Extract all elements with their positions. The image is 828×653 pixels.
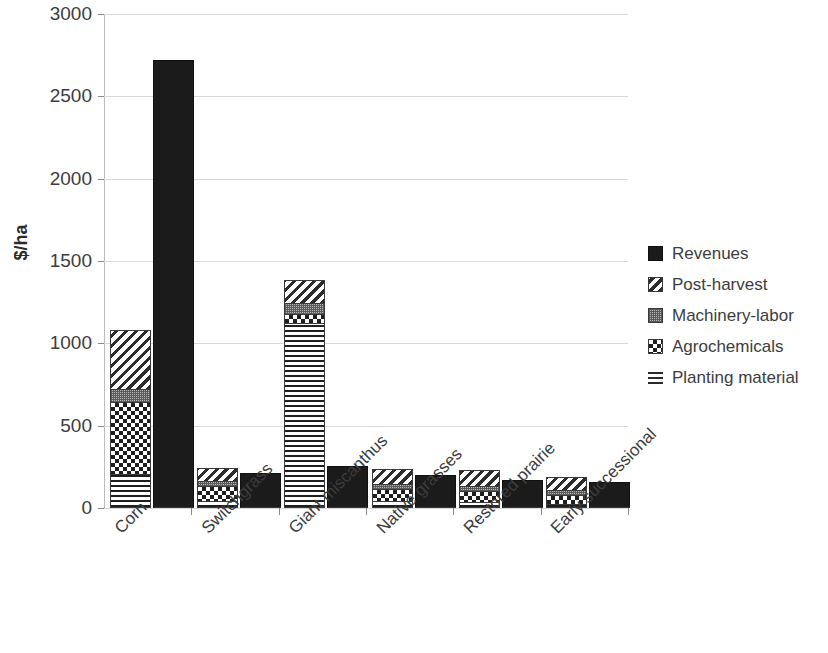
bar-group <box>197 14 281 508</box>
bar-segment-post-harvest[interactable] <box>459 470 500 486</box>
chart-legend: RevenuesPost-harvestMachinery-laborAgroc… <box>648 238 828 393</box>
bar-segment-post-harvest[interactable] <box>284 280 325 303</box>
revenue-bar[interactable] <box>153 60 194 508</box>
y-tick-mark <box>98 426 104 427</box>
bar-group <box>372 14 456 508</box>
legend-item[interactable]: Machinery-labor <box>648 300 828 331</box>
y-tick-mark <box>98 261 104 262</box>
legend-item[interactable]: Post-harvest <box>648 269 828 300</box>
legend-item[interactable]: Agrochemicals <box>648 331 828 362</box>
y-tick-mark <box>98 508 104 509</box>
bar-segment-post-harvest[interactable] <box>197 468 238 481</box>
y-tick-mark <box>98 179 104 180</box>
cost-stacked-bar[interactable] <box>284 280 325 508</box>
horizontal-lines-swatch <box>648 371 663 384</box>
legend-label: Machinery-labor <box>672 306 794 326</box>
legend-item[interactable]: Revenues <box>648 238 828 269</box>
y-tick-label: 0 <box>22 498 92 517</box>
y-tick-mark <box>98 343 104 344</box>
diagonal-hatch-swatch <box>648 277 663 292</box>
y-tick-label: 2500 <box>22 86 92 105</box>
plot-area <box>104 14 628 508</box>
x-tick-mark <box>366 508 367 515</box>
bar-segment-machinery-labor[interactable] <box>110 389 151 401</box>
y-tick-mark <box>98 96 104 97</box>
bar-segment-agrochemicals[interactable] <box>284 314 325 323</box>
x-tick-mark <box>541 508 542 515</box>
bar-segment-post-harvest[interactable] <box>372 469 413 485</box>
y-tick-label: 2000 <box>22 169 92 188</box>
y-tick-mark <box>98 14 104 15</box>
checkerboard-swatch <box>648 339 663 354</box>
legend-label: Agrochemicals <box>672 337 784 357</box>
y-tick-label: 3000 <box>22 4 92 23</box>
x-tick-mark <box>453 508 454 515</box>
bar-chart-figure: $/ha 050010001500200025003000 CornSwitch… <box>0 0 828 653</box>
bar-segment-revenues[interactable] <box>153 60 194 508</box>
y-tick-label: 500 <box>22 416 92 435</box>
bar-group <box>459 14 543 508</box>
x-tick-mark <box>628 508 629 515</box>
bar-segment-agrochemicals[interactable] <box>110 402 151 474</box>
bar-group <box>284 14 368 508</box>
bar-segment-post-harvest[interactable] <box>110 330 151 389</box>
cost-stacked-bar[interactable] <box>110 330 151 508</box>
fine-grid-swatch <box>648 308 663 323</box>
bar-segment-planting-material[interactable] <box>284 323 325 508</box>
legend-label: Post-harvest <box>672 275 767 295</box>
x-tick-mark <box>191 508 192 515</box>
y-tick-label: 1000 <box>22 333 92 352</box>
legend-label: Planting material <box>672 368 799 388</box>
solid-square-swatch <box>648 246 663 261</box>
x-tick-mark <box>279 508 280 515</box>
bar-segment-machinery-labor[interactable] <box>284 303 325 314</box>
legend-item[interactable]: Planting material <box>648 362 828 393</box>
bar-group <box>110 14 194 508</box>
legend-label: Revenues <box>672 244 749 264</box>
y-tick-label: 1500 <box>22 251 92 270</box>
bar-group <box>546 14 630 508</box>
